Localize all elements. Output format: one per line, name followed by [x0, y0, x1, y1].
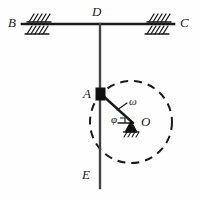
support-hatch-left-lower	[25, 26, 49, 34]
figure-canvas	[0, 0, 199, 197]
mechanism-figure: B C D E A O ω φ	[0, 0, 199, 197]
label-angular-velocity-omega: ω	[129, 96, 137, 107]
support-hatch-right	[147, 14, 171, 22]
label-point-c: C	[180, 16, 189, 29]
support-hatch-right-lower	[145, 26, 169, 34]
slider-block-a	[96, 88, 105, 100]
label-crank-angle-phi: φ	[111, 114, 117, 125]
label-point-b: B	[8, 16, 16, 29]
label-point-a: A	[83, 87, 91, 100]
label-point-d: D	[92, 5, 101, 18]
omega-leader-line	[117, 103, 127, 110]
label-point-o: O	[141, 115, 150, 128]
support-hatch-left	[27, 14, 51, 22]
label-point-e: E	[82, 168, 90, 181]
right-angle-marker	[120, 118, 125, 123]
